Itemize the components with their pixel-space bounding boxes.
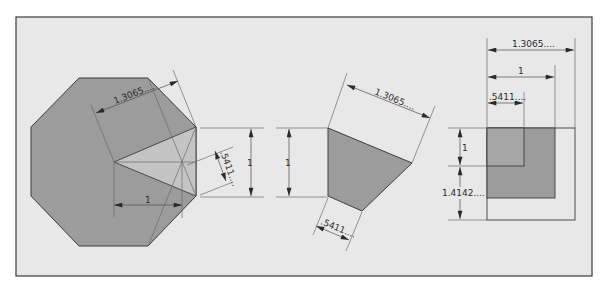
square-outer-width-label: 1.3065.... <box>512 39 555 49</box>
square-mid-width-label: 1 <box>518 66 524 76</box>
height-dim-label-1: 1 <box>247 158 253 168</box>
height-dim-label-2: 1 <box>285 158 291 168</box>
square-top-height-label: 1 <box>462 143 468 153</box>
square-inner-width-label: .5411.... <box>489 92 526 102</box>
geometry-diagram: 1.3065.... 1 .5411.... 1 1 1.3065.... .5… <box>0 0 610 291</box>
square-bottom-height-label: 1.4142.... <box>442 188 485 198</box>
octagon-base-label: 1 <box>145 195 151 205</box>
inner-square <box>487 128 524 166</box>
